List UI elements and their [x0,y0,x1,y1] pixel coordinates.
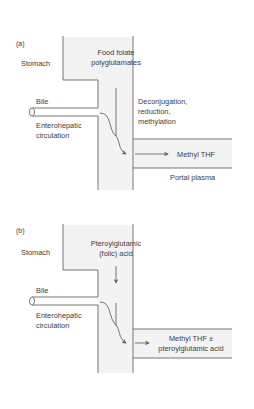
source-label-line1: Pteroylglutamic [80,239,152,248]
bile-duct-opening-icon [30,297,35,305]
source-label-line2: polyglutamates [80,58,152,67]
bile-duct-opening-icon [30,108,35,116]
process-label-line1: Deconjugation, [138,97,187,106]
panel-a-tag: (a) [16,39,25,48]
stomach-label: Stomach [21,248,50,257]
product-label-line2: pteroylglutamic acid [150,344,232,353]
bile-label: Bile [36,97,48,106]
product-label-line1: Methyl THF ± [150,334,232,343]
source-label-line1: Food folate [80,48,152,57]
enterohepatic-label-line2: circulation [36,131,69,140]
source-label-line2: (folic) acid [80,249,152,258]
enterohepatic-label-line1: Enterohepatic [36,121,82,130]
product-label: Methyl THF [177,150,215,159]
enterohepatic-label-line1: Enterohepatic [36,311,82,320]
enterohepatic-label-line2: circulation [36,321,69,330]
process-label-line3: methylation [138,117,176,126]
stomach-label: Stomach [21,59,50,68]
process-label-line2: reduction, [138,107,170,116]
panel-b-tag: (b) [16,226,25,235]
bile-label: Bile [36,286,48,295]
portal-plasma-label: Portal plasma [170,173,215,182]
